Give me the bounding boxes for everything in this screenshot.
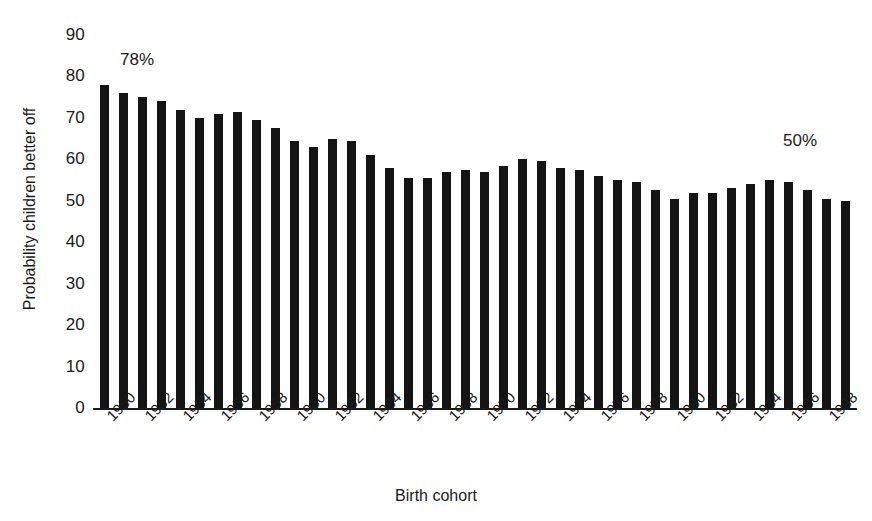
bar (176, 110, 185, 408)
bar (233, 112, 242, 408)
y-tick-label: 90 (66, 26, 85, 43)
bar (689, 193, 698, 409)
x-axis-line (93, 408, 857, 410)
bar (480, 172, 489, 408)
y-tick-label: 10 (66, 358, 85, 375)
bar (271, 128, 280, 408)
bar (784, 182, 793, 408)
bar (670, 199, 679, 408)
bar (157, 101, 166, 408)
bar (461, 170, 470, 408)
y-axis-ticks: 0102030405060708090 (0, 0, 95, 521)
bar (651, 190, 660, 408)
bar (613, 180, 622, 408)
bar (537, 161, 546, 408)
x-axis-ticks: 1950195219541956195819601962196419661968… (95, 412, 855, 482)
bar (423, 178, 432, 408)
bar (290, 141, 299, 408)
bar (442, 172, 451, 408)
bar (575, 170, 584, 408)
bar (328, 139, 337, 408)
y-tick-label: 50 (66, 192, 85, 209)
y-tick-label: 20 (66, 316, 85, 333)
bar (119, 93, 128, 408)
bar (138, 97, 147, 408)
bar (708, 193, 717, 409)
annotation-start-value: 78% (120, 50, 154, 70)
bar (822, 199, 831, 408)
bar (347, 141, 356, 408)
bar (765, 180, 774, 408)
bar (366, 155, 375, 408)
bar (518, 159, 527, 408)
page-top-fragment (0, 0, 872, 10)
bar (309, 147, 318, 408)
bar (100, 85, 109, 408)
bar (195, 118, 204, 408)
bar (594, 176, 603, 408)
bar (252, 120, 261, 408)
plot-area (95, 35, 855, 408)
annotation-end-value: 50% (783, 131, 817, 151)
y-tick-label: 60 (66, 150, 85, 167)
bar (727, 188, 736, 408)
x-axis-title: Birth cohort (0, 487, 872, 505)
bar (556, 168, 565, 408)
y-tick-label: 40 (66, 233, 85, 250)
y-tick-label: 80 (66, 67, 85, 84)
bar (803, 190, 812, 408)
bar (385, 168, 394, 408)
y-tick-label: 30 (66, 275, 85, 292)
bar (841, 201, 850, 408)
bar (404, 178, 413, 408)
bar (746, 184, 755, 408)
bar (214, 114, 223, 408)
bar (499, 166, 508, 408)
bar (632, 182, 641, 408)
chart-figure: Probability children better off 01020304… (0, 0, 872, 521)
y-tick-label: 0 (75, 399, 85, 416)
y-tick-label: 70 (66, 109, 85, 126)
